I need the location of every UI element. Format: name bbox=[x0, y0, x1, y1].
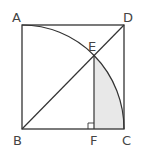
label-b: B bbox=[13, 134, 22, 147]
label-f: F bbox=[90, 134, 97, 147]
shaded-region bbox=[94, 55, 124, 129]
label-c: C bbox=[122, 134, 131, 147]
label-a: A bbox=[12, 11, 21, 24]
label-e: E bbox=[88, 40, 96, 53]
right-angle-mark bbox=[88, 123, 94, 129]
label-d: D bbox=[123, 11, 133, 24]
